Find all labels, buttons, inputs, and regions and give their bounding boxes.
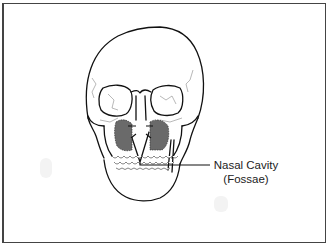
label-fossae: (Fossae)	[206, 172, 286, 186]
left-orbit	[99, 85, 132, 116]
right-orbit	[151, 86, 183, 116]
nasal-bridge	[131, 90, 151, 93]
nasal-fossae-shading	[115, 120, 169, 151]
skull-illustration	[0, 0, 332, 247]
label-nasal-cavity: Nasal Cavity	[206, 158, 286, 172]
